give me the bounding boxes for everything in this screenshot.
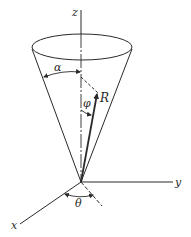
cone-rim bbox=[32, 34, 132, 60]
alpha-arc bbox=[44, 72, 80, 77]
phi-label: φ bbox=[83, 97, 91, 110]
alpha-label: α bbox=[54, 61, 62, 74]
r-projection-dashed bbox=[81, 77, 98, 93]
theta-label: θ bbox=[75, 197, 82, 210]
cone-right-edge bbox=[81, 49, 132, 182]
r-xy-projection-dashed bbox=[81, 182, 102, 206]
z-label: z bbox=[71, 6, 78, 19]
x-axis bbox=[20, 182, 81, 224]
phi-arc bbox=[81, 110, 91, 115]
x-label: x bbox=[11, 219, 18, 232]
y-label: y bbox=[174, 176, 182, 189]
cone-diagram: z y x α φ R θ bbox=[0, 0, 191, 237]
r-label: R bbox=[99, 91, 109, 105]
